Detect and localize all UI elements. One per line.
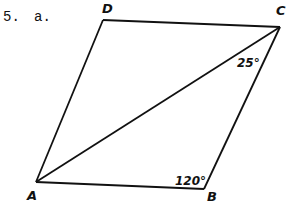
edge-dc xyxy=(103,20,280,27)
vertex-label-b: B xyxy=(207,189,217,204)
vertex-label-a: A xyxy=(26,188,37,203)
problem-number: 5. xyxy=(3,9,20,25)
parallelogram-diagram: 5. a. D C A B 25° 120° xyxy=(0,0,292,204)
problem-part: a. xyxy=(34,9,51,25)
edge-ad xyxy=(36,20,103,182)
angle-label-c: 25° xyxy=(237,56,260,70)
parallelogram-edges xyxy=(36,20,280,189)
vertex-label-c: C xyxy=(276,3,286,18)
angle-label-b: 120° xyxy=(175,174,206,188)
vertex-label-d: D xyxy=(102,1,113,16)
